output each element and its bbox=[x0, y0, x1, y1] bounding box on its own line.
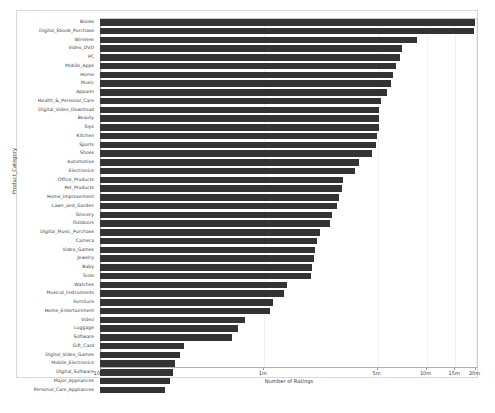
bar bbox=[100, 317, 245, 324]
bar-row bbox=[100, 211, 478, 220]
x-axis-title: Number of Ratings bbox=[100, 378, 478, 384]
y-axis-tick-label: Outdoors bbox=[0, 219, 97, 228]
y-axis-tick-label: Watches bbox=[0, 281, 97, 290]
y-axis-tick-label: Mobile_Apps bbox=[0, 62, 97, 71]
bar-row bbox=[100, 298, 478, 307]
y-tick-text: Digital_Ebook_Purchase bbox=[39, 29, 94, 34]
bar bbox=[100, 369, 173, 376]
bar-row bbox=[100, 44, 478, 53]
y-axis-tick-label: Mobile_Electronics bbox=[0, 359, 97, 368]
bar bbox=[100, 115, 379, 122]
y-tick-text: Toys bbox=[84, 125, 94, 130]
y-tick-text: Music bbox=[81, 81, 94, 86]
bar-row bbox=[100, 281, 478, 290]
y-tick-text: Electronics bbox=[69, 169, 94, 174]
bar bbox=[100, 63, 396, 70]
y-tick-text: Digital_Video_Download bbox=[38, 108, 94, 113]
bar bbox=[100, 334, 232, 341]
bar-row bbox=[100, 53, 478, 62]
y-tick-text: Tools bbox=[83, 274, 94, 279]
bar bbox=[100, 177, 343, 184]
y-axis-tick-label: Video_DVD bbox=[0, 44, 97, 53]
x-tick-text: 15m bbox=[449, 370, 460, 376]
x-tick-text: 100K bbox=[94, 370, 107, 376]
y-axis-tick-label: Musical_Instruments bbox=[0, 289, 97, 298]
bar bbox=[100, 343, 184, 350]
bar bbox=[100, 142, 376, 149]
bar bbox=[100, 352, 180, 359]
y-tick-text: Musical_Instruments bbox=[46, 291, 94, 296]
y-axis-tick-label: Video bbox=[0, 316, 97, 325]
x-tick-text: 5m bbox=[373, 370, 381, 376]
bar bbox=[100, 194, 339, 201]
bar bbox=[100, 325, 238, 332]
y-tick-text: Lawn_and_Garden bbox=[52, 204, 94, 209]
y-tick-text: Jewelry bbox=[77, 256, 94, 261]
y-tick-text: Video_DVD bbox=[69, 46, 94, 51]
bar-row bbox=[100, 149, 478, 158]
bar-row bbox=[100, 176, 478, 185]
y-axis-tick-label: Personal_Care_Appliances bbox=[0, 386, 97, 395]
bar-row bbox=[100, 289, 478, 298]
y-tick-text: PC bbox=[88, 55, 94, 60]
bar bbox=[100, 220, 330, 227]
bar bbox=[100, 45, 402, 52]
bar-row bbox=[100, 219, 478, 228]
y-tick-text: Health_&_Personal_Care bbox=[38, 99, 94, 104]
y-tick-text: Home bbox=[80, 73, 94, 78]
y-tick-text: Sports bbox=[79, 143, 94, 148]
bar-series bbox=[100, 18, 478, 368]
x-tick-text: 20m bbox=[469, 370, 480, 376]
chart-figure: BooksDigital_Ebook_PurchaseWirelessVideo… bbox=[0, 0, 495, 413]
y-tick-text: Video_Games bbox=[63, 248, 94, 253]
y-tick-text: Mobile_Electronics bbox=[51, 361, 94, 366]
y-tick-text: Apparel bbox=[76, 90, 94, 95]
bar bbox=[100, 360, 175, 367]
bar-row bbox=[100, 237, 478, 246]
bar-row bbox=[100, 324, 478, 333]
bar-row bbox=[100, 351, 478, 360]
bar bbox=[100, 387, 165, 394]
bar-row bbox=[100, 193, 478, 202]
y-tick-text: Books bbox=[80, 20, 94, 25]
y-tick-text: Camera bbox=[76, 239, 94, 244]
bar bbox=[100, 159, 359, 166]
y-tick-text: Furniture bbox=[73, 300, 94, 305]
bar-row bbox=[100, 184, 478, 193]
y-axis-tick-label: Apparel bbox=[0, 88, 97, 97]
y-tick-text: Outdoors bbox=[73, 221, 94, 226]
y-axis-tick-label: Music bbox=[0, 79, 97, 88]
y-axis-tick-label: Software bbox=[0, 333, 97, 342]
bar-row bbox=[100, 359, 478, 368]
bar-row bbox=[100, 141, 478, 150]
y-axis-tick-label: Home_Entertainment bbox=[0, 307, 97, 316]
x-tick-text: 10m bbox=[420, 370, 431, 376]
bar bbox=[100, 299, 273, 306]
bar bbox=[100, 273, 311, 280]
bar-row bbox=[100, 18, 478, 27]
bar bbox=[100, 247, 315, 254]
bar-row bbox=[100, 132, 478, 141]
bar bbox=[100, 124, 379, 131]
y-axis-tick-label: Digital_Music_Purchase bbox=[0, 228, 97, 237]
y-tick-text: Watches bbox=[74, 283, 94, 288]
bar bbox=[100, 133, 377, 140]
bar-row bbox=[100, 316, 478, 325]
y-tick-text: Software bbox=[74, 335, 94, 340]
bar-row bbox=[100, 386, 478, 395]
bar bbox=[100, 54, 400, 61]
bar bbox=[100, 308, 270, 315]
bar bbox=[100, 238, 317, 245]
bar bbox=[100, 80, 391, 87]
bar bbox=[100, 282, 287, 289]
bar-row bbox=[100, 36, 478, 45]
bar-row bbox=[100, 71, 478, 80]
bar-row bbox=[100, 333, 478, 342]
bar bbox=[100, 19, 475, 26]
y-tick-text: Digital_Music_Purchase bbox=[40, 230, 94, 235]
bar-row bbox=[100, 114, 478, 123]
bar-row bbox=[100, 88, 478, 97]
x-tick-text: 1m bbox=[259, 370, 267, 376]
y-axis-tick-label: Video_Games bbox=[0, 246, 97, 255]
y-tick-text: Major_Appliances bbox=[54, 379, 94, 384]
